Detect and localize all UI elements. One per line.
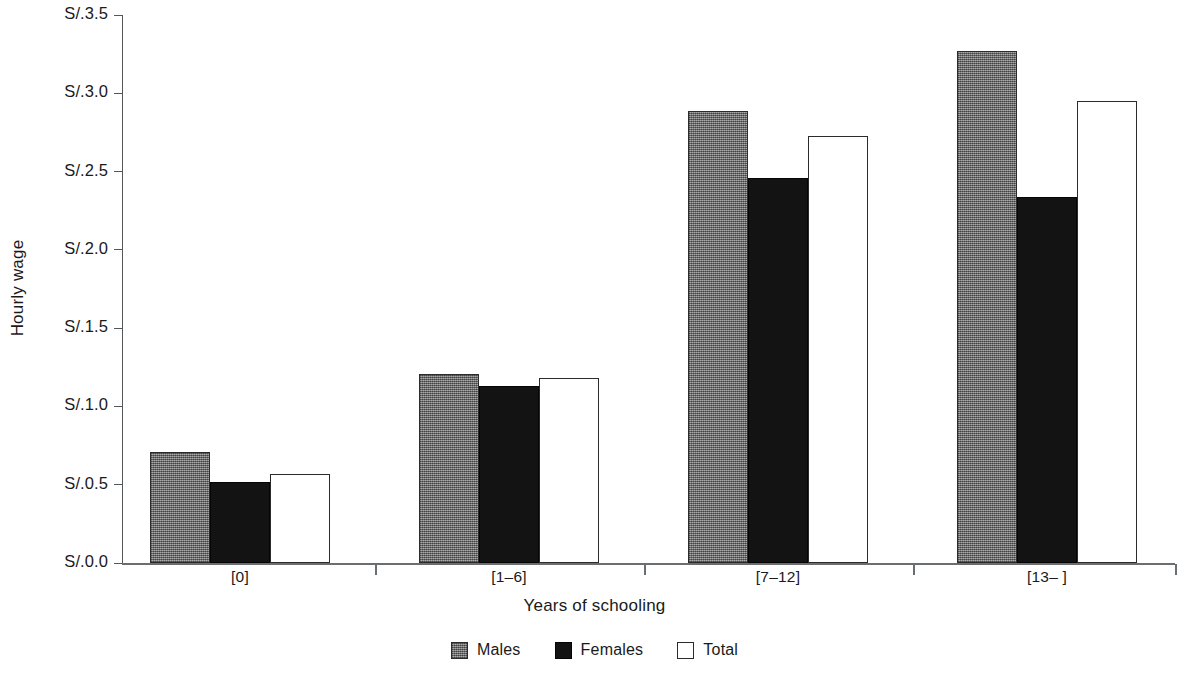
legend-swatch-total bbox=[677, 642, 694, 659]
y-axis-line bbox=[122, 15, 123, 564]
legend-label-total: Total bbox=[703, 641, 738, 659]
bar-females-1 bbox=[479, 386, 539, 563]
bar-total-1 bbox=[539, 378, 599, 563]
bar-chart: Hourly wage S/.0.0S/.0.5S/.1.0S/.1.5S/.2… bbox=[0, 0, 1189, 680]
x-axis-tick bbox=[1175, 564, 1177, 575]
x-axis-line bbox=[122, 563, 1175, 565]
y-axis-tick-label: S/.2.0 bbox=[8, 239, 108, 258]
x-axis-group-label: [0] bbox=[150, 568, 330, 586]
bar-males-1 bbox=[419, 374, 479, 563]
bar-males-3 bbox=[957, 51, 1017, 563]
chart-legend: MalesFemalesTotal bbox=[0, 641, 1189, 659]
legend-swatch-females bbox=[555, 642, 572, 659]
bar-males-2 bbox=[688, 111, 748, 563]
legend-item-total: Total bbox=[677, 641, 738, 659]
y-axis-tick-label: S/.2.5 bbox=[8, 161, 108, 180]
y-axis-tick-label: S/.0.5 bbox=[8, 474, 108, 493]
y-axis-tick bbox=[114, 328, 123, 329]
bar-females-0 bbox=[210, 482, 270, 563]
x-axis-group-label: [13– ] bbox=[957, 568, 1137, 586]
x-axis-tick bbox=[375, 564, 377, 575]
legend-swatch-males bbox=[451, 642, 468, 659]
legend-label-females: Females bbox=[581, 641, 644, 659]
y-axis-tick-label: S/.0.0 bbox=[8, 552, 108, 571]
y-axis-tick-label: S/.1.0 bbox=[8, 395, 108, 414]
y-axis-tick bbox=[114, 93, 123, 94]
x-axis-group-label: [7–12] bbox=[688, 568, 868, 586]
y-axis-tick bbox=[114, 249, 123, 250]
y-axis-tick-label: S/.3.5 bbox=[8, 4, 108, 23]
x-axis-tick bbox=[644, 564, 646, 575]
x-axis-group-label: [1–6] bbox=[419, 568, 599, 586]
bar-total-2 bbox=[808, 136, 868, 563]
y-axis-tick-label: S/.1.5 bbox=[8, 317, 108, 336]
legend-label-males: Males bbox=[477, 641, 521, 659]
y-axis-tick bbox=[114, 171, 123, 172]
legend-item-males: Males bbox=[451, 641, 521, 659]
bar-males-0 bbox=[150, 452, 210, 563]
bar-females-2 bbox=[748, 178, 808, 563]
bar-females-3 bbox=[1017, 197, 1077, 563]
x-axis-title: Years of schooling bbox=[0, 596, 1189, 616]
y-axis-tick-label: S/.3.0 bbox=[8, 82, 108, 101]
bar-total-3 bbox=[1077, 101, 1137, 563]
x-axis-tick bbox=[913, 564, 915, 575]
bar-total-0 bbox=[270, 474, 330, 563]
legend-item-females: Females bbox=[555, 641, 644, 659]
y-axis-tick bbox=[114, 406, 123, 407]
y-axis-tick bbox=[114, 484, 123, 485]
y-axis-tick bbox=[114, 15, 123, 16]
